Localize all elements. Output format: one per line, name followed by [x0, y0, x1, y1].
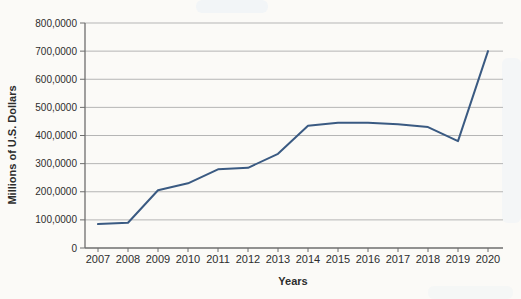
scanned-line-chart-page: 0100,0000200,0000300,0000400,0000500,000… — [0, 0, 521, 299]
y-tick-label: 800,0000 — [35, 18, 77, 29]
x-tick-label: 2020 — [476, 253, 500, 265]
x-tick-label: 2018 — [416, 253, 440, 265]
x-tick-label: 2016 — [356, 253, 380, 265]
y-tick-label: 300,0000 — [35, 158, 77, 169]
x-tick-label: 2009 — [146, 253, 170, 265]
y-tick-label: 0 — [71, 243, 77, 254]
data-line-series — [98, 51, 488, 224]
y-tick-label: 200,0000 — [35, 186, 77, 197]
x-tick-label: 2017 — [386, 253, 410, 265]
x-tick-label: 2008 — [116, 253, 140, 265]
x-tick-label: 2019 — [446, 253, 470, 265]
x-tick-label: 2013 — [266, 253, 290, 265]
line-chart-plot: 0100,0000200,0000300,0000400,0000500,000… — [0, 0, 521, 299]
y-tick-label: 600,0000 — [35, 74, 77, 85]
x-tick-label: 2014 — [296, 253, 320, 265]
x-tick-label: 2010 — [176, 253, 200, 265]
x-tick-label: 2011 — [206, 253, 230, 265]
y-axis-title: Millions of U.S. Dollars — [6, 85, 18, 204]
x-tick-label: 2012 — [236, 253, 260, 265]
y-tick-label: 700,0000 — [35, 46, 77, 57]
x-tick-label: 2007 — [86, 253, 110, 265]
x-axis-title: Years — [278, 275, 307, 287]
x-tick-label: 2015 — [326, 253, 350, 265]
y-tick-label: 400,0000 — [35, 130, 77, 141]
y-tick-label: 100,0000 — [35, 214, 77, 225]
y-tick-label: 500,0000 — [35, 102, 77, 113]
